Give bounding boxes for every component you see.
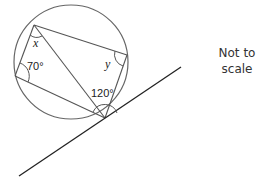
- note-line-2: scale: [213, 61, 261, 77]
- note-line-1: Not to: [213, 45, 261, 61]
- label-x: x: [32, 36, 39, 50]
- label-120: 120°: [91, 87, 114, 99]
- tangent-line: [19, 67, 181, 176]
- label-y: y: [104, 57, 111, 71]
- not-to-scale-note: Not to scale: [213, 45, 261, 77]
- label-70: 70°: [27, 60, 44, 72]
- diagonal-chord: [34, 25, 105, 118]
- circle-diagram: x 70° y 120°: [0, 0, 262, 183]
